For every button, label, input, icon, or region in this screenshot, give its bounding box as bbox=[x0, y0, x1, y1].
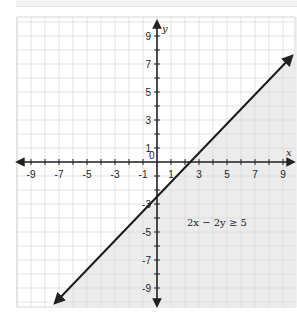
y-tick-label: 3 bbox=[145, 115, 151, 126]
x-tick-label: -9 bbox=[27, 169, 36, 180]
y-tick-label: -7 bbox=[142, 255, 151, 266]
y-tick-label: -9 bbox=[142, 283, 151, 294]
x-tick-label: -7 bbox=[55, 169, 64, 180]
x-tick-label: 9 bbox=[280, 169, 286, 180]
y-tick-label: 7 bbox=[145, 59, 151, 70]
origin-label: 0 bbox=[149, 150, 155, 161]
y-tick-label: -5 bbox=[142, 227, 151, 238]
y-tick-label: 5 bbox=[145, 87, 151, 98]
x-tick-label: -1 bbox=[139, 169, 148, 180]
x-tick-label: 3 bbox=[196, 169, 202, 180]
x-axis-label: x bbox=[286, 147, 292, 158]
x-tick-label: 7 bbox=[252, 169, 258, 180]
x-tick-label: -5 bbox=[83, 169, 92, 180]
x-tick-label: 5 bbox=[224, 169, 230, 180]
coordinate-plane: -9-7-5-3-113579-9-7-5-313579 x y 0 2x − … bbox=[0, 0, 297, 316]
y-axis-label: y bbox=[161, 23, 168, 34]
inequality-label: 2x − 2y ≥ 5 bbox=[187, 217, 247, 228]
x-tick-label: -3 bbox=[111, 169, 120, 180]
y-tick-label: 9 bbox=[145, 31, 151, 42]
